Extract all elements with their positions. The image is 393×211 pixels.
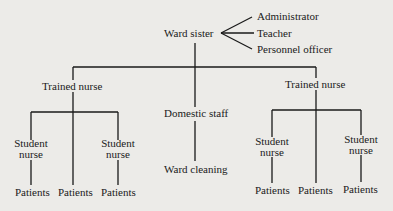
student-nurse-right-a: Student nurse [255, 136, 289, 158]
patients-right-2: Patients [298, 185, 333, 196]
patients-left-2: Patients [58, 187, 93, 198]
ward-cleaning-node: Ward cleaning [164, 164, 228, 175]
role-administrator: Administrator [257, 11, 319, 22]
student-nurse-right-b: Student nurse [344, 134, 378, 156]
nurse-label: nurse [14, 149, 48, 160]
trained-nurse-right: Trained nurse [285, 79, 345, 90]
domestic-staff-node: Domestic staff [164, 108, 228, 119]
patients-left-1: Patients [15, 187, 50, 198]
role-personnel-officer: Personnel officer [257, 44, 332, 55]
role-teacher: Teacher [257, 28, 292, 39]
student-nurse-left-a: Student nurse [14, 138, 48, 160]
patients-right-1: Patients [255, 185, 290, 196]
student-nurse-left-b: Student nurse [101, 138, 135, 160]
trained-nurse-left: Trained nurse [42, 81, 102, 92]
nurse-label: nurse [101, 149, 135, 160]
patients-left-3: Patients [101, 187, 136, 198]
nurse-label: nurse [255, 147, 289, 158]
nurse-label: nurse [344, 145, 378, 156]
patients-right-3: Patients [343, 184, 378, 195]
ward-sister-node: Ward sister [164, 28, 214, 39]
